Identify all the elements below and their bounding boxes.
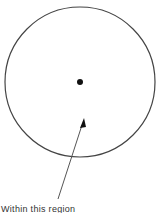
diagram-canvas [0,0,164,213]
center-point [77,79,83,85]
arrow-shaft [58,125,82,199]
annotation-label: Within this region [1,204,75,213]
arrow-head-icon [80,118,86,128]
